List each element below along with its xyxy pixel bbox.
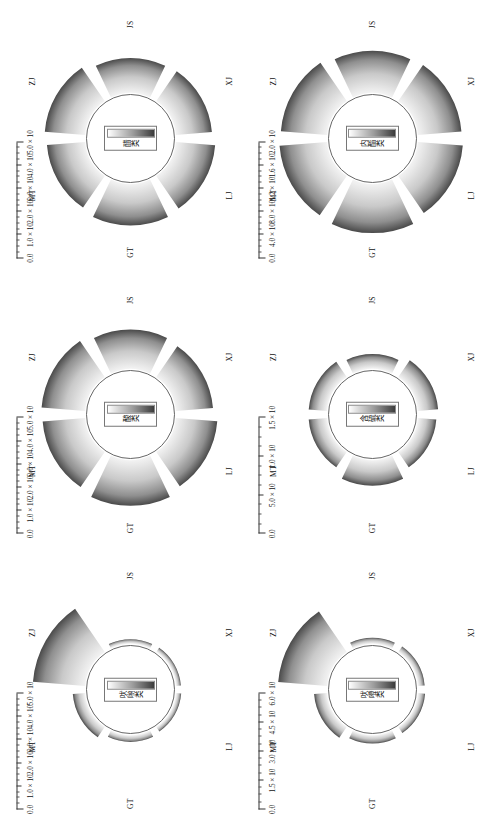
axis-tick-minor (16, 158, 19, 159)
axis-tick-minor (16, 222, 19, 223)
sector-label-zj: ZJ (27, 628, 36, 636)
axis-tick-major (258, 721, 263, 722)
rose-sector (341, 455, 402, 485)
axis-tick-major (258, 416, 265, 417)
rose-sector (91, 455, 170, 505)
sector-label-zj: ZJ (269, 352, 278, 360)
axis-line (16, 142, 25, 258)
panel-inner: 0.01.0 × 102.0 × 103.0 × 104.0 × 105.0 ×… (0, 551, 242, 827)
colorbar-gradient (348, 680, 396, 689)
axis-tick-minor (258, 699, 261, 700)
axis-tick-minor (258, 158, 261, 159)
axis-tick-major (16, 762, 21, 763)
axis-tick-major (258, 692, 265, 693)
sector-label-mt: MT (269, 465, 278, 477)
sector-label-xj: XJ (225, 76, 234, 85)
axis-tick-major (16, 257, 23, 258)
axis-tick-minor (16, 521, 19, 522)
axis-tick-minor (16, 451, 19, 452)
colorbar-gradient (106, 680, 154, 689)
rose-diagram: ZJJSXJLJGTMT内酯类 (272, 38, 472, 238)
axis-tick-minor (16, 228, 19, 229)
figure-canvas: 0.01.0 × 102.0 × 103.0 × 104.0 × 105.0 ×… (0, 0, 483, 827)
axis-tick-major (16, 738, 21, 739)
axis-tick-minor (16, 469, 19, 470)
axis-tick-minor (258, 523, 261, 524)
rose-diagram: ZJJSXJLJGTMT含硫类 (272, 314, 472, 514)
axis-tick-minor (258, 239, 261, 240)
sector-label-js: JS (367, 571, 376, 579)
sector-label-gt: GT (126, 247, 135, 258)
axis-tick-minor (258, 474, 261, 475)
axis-tick-minor (16, 251, 19, 252)
chart-panel: 0.01.5 × 103.0 × 104.5 × 106.0 × 10ZJJSX… (242, 551, 483, 827)
axis-tick-major (258, 210, 263, 211)
axis-tick-minor (258, 728, 261, 729)
rose-diagram: ZJJSXJLJGTMT吠喲类 (30, 589, 230, 789)
rose-sector (94, 329, 167, 373)
colorbar-gradient (348, 129, 396, 138)
sector-label-js: JS (126, 571, 135, 579)
axis-tick-minor (258, 445, 261, 446)
axis-tick-minor (258, 199, 261, 200)
axis-tick-minor (16, 193, 19, 194)
panel-inner: 0.01.5 × 103.0 × 104.5 × 106.0 × 10ZJJSX… (242, 551, 483, 827)
axis-tick-minor (16, 428, 19, 429)
sector-label-mt: MT (27, 465, 36, 477)
sector-label-zj: ZJ (27, 352, 36, 360)
axis-tick-major (16, 463, 21, 464)
axis-tick-major (16, 532, 23, 533)
axis-tick-major (16, 141, 23, 142)
panel-title: 醋类 (122, 140, 138, 148)
axis-tick-major (16, 808, 23, 809)
axis-tick-major (258, 494, 263, 495)
axis-tick-minor (16, 704, 19, 705)
chart-panel: 0.01.0 × 102.0 × 103.0 × 104.0 × 105.0 ×… (0, 551, 242, 827)
axis-tick-minor (258, 204, 261, 205)
axis-tick-minor (258, 513, 261, 514)
axis-tick-minor (16, 796, 19, 797)
axis-tick-major (16, 164, 21, 165)
axis-tick-minor (16, 802, 19, 803)
axis-tick-minor (16, 744, 19, 745)
axis-tick-minor (258, 181, 261, 182)
rose-diagram: ZJJSXJLJGTMT醋类 (30, 38, 230, 238)
sector-label-mt: MT (269, 740, 278, 752)
sector-label-js: JS (126, 20, 135, 28)
sector-label-xj: XJ (466, 628, 475, 637)
axis-tick-label: 0.0 (268, 529, 276, 538)
rose-sector (331, 179, 412, 233)
panel-inner: 0.01.0 × 102.0 × 103.0 × 104.0 × 105.0 ×… (0, 0, 242, 276)
axis-tick-minor (16, 721, 19, 722)
axis-tick-minor (16, 170, 19, 171)
sector-label-xj: XJ (225, 628, 234, 637)
axis-line (258, 142, 267, 258)
axis-tick-minor (16, 422, 19, 423)
chart-panel: 0.04.0 × 108.0 × 101.2 × 101.6 × 102.0 ×… (242, 0, 483, 276)
axis-tick-minor (258, 170, 261, 171)
axis-tick-minor (16, 527, 19, 528)
axis-tick-minor (258, 465, 261, 466)
sector-label-zj: ZJ (269, 628, 278, 636)
axis-tick-minor (16, 515, 19, 516)
axis-tick-minor (16, 474, 19, 475)
axis-tick-minor (258, 707, 261, 708)
axis-tick-major (258, 187, 263, 188)
sector-label-gt: GT (367, 522, 376, 533)
sector-label-lj: LJ (225, 191, 234, 199)
axis-tick-minor (258, 222, 261, 223)
axis-tick-major (16, 785, 21, 786)
sector-label-gt: GT (126, 798, 135, 809)
axis-tick-minor (258, 426, 261, 427)
axis-tick-minor (258, 801, 261, 802)
panel-title: 吠喲类 (118, 691, 143, 699)
axis-line (16, 693, 25, 809)
axis-tick-major (16, 210, 21, 211)
axis-tick-minor (258, 794, 261, 795)
colorbar-gradient (106, 129, 154, 138)
sector-label-gt: GT (126, 522, 135, 533)
axis-tick-minor (16, 727, 19, 728)
axis-tick-minor (258, 245, 261, 246)
axis-tick-major (258, 532, 265, 533)
axis-line (258, 417, 267, 533)
